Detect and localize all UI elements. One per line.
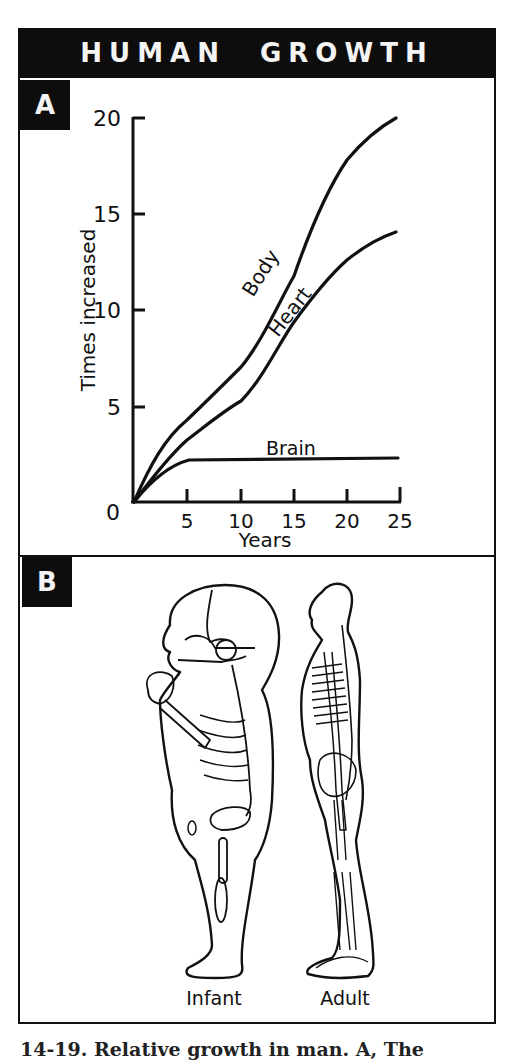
x-axis: 5 10 15 20 25 Years xyxy=(131,487,413,552)
infant-figure xyxy=(147,585,279,978)
infant-label: Infant xyxy=(186,987,241,1009)
y-tick-5: 5 xyxy=(107,395,121,420)
figure-caption: 14-19. Relative growth in man. A, The xyxy=(20,1038,424,1060)
y-tick-20: 20 xyxy=(93,106,121,131)
y-axis-label: Times increased xyxy=(76,229,100,393)
y-tick-15: 15 xyxy=(93,202,121,227)
x-axis-label: Years xyxy=(238,528,292,552)
panel-divider xyxy=(18,555,496,557)
heart-curve-label: Heart xyxy=(263,282,316,341)
x-tick-20: 20 xyxy=(334,509,359,533)
brain-curve xyxy=(134,458,398,502)
x-tick-5: 5 xyxy=(181,509,194,533)
growth-chart: 20 15 10 5 0 Times increased 5 10 15 20 … xyxy=(0,0,515,560)
adult-label: Adult xyxy=(320,987,370,1009)
y-axis: 20 15 10 5 0 Times increased xyxy=(76,106,145,525)
body-curve-label: Body xyxy=(237,245,284,301)
x-tick-25: 25 xyxy=(387,509,412,533)
brain-curve-label: Brain xyxy=(266,437,316,459)
origin-label: 0 xyxy=(106,500,120,525)
body-curve xyxy=(134,118,396,502)
adult-figure xyxy=(301,584,373,978)
skeleton-illustration: Infant Adult xyxy=(0,560,515,1030)
